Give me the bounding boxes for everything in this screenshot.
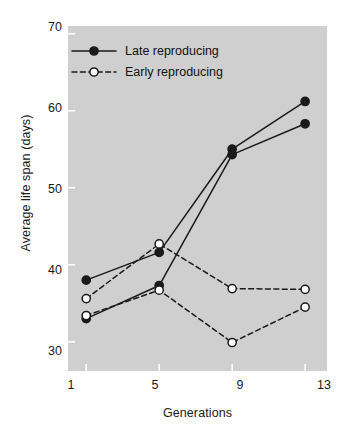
data-point-open [228, 285, 236, 293]
data-point-open [301, 285, 309, 293]
legend-label: Late reproducing [125, 44, 219, 58]
data-point-open [155, 286, 163, 294]
legend-marker-filled [90, 47, 98, 55]
data-point-filled [82, 276, 90, 284]
chart-figure: Average life span (days) 70 60 50 40 30 … [0, 0, 344, 433]
data-point-open [82, 295, 90, 303]
legend-label: Early reproducing [125, 65, 223, 79]
data-point-open [301, 303, 309, 311]
plot-canvas: Late reproducingEarly reproducing [0, 0, 344, 433]
data-point-filled [155, 248, 163, 256]
data-point-open [82, 311, 90, 319]
data-point-filled [301, 120, 309, 128]
legend-marker-open [90, 68, 98, 76]
data-point-open [228, 338, 236, 346]
data-point-open [155, 240, 163, 248]
data-point-filled [228, 151, 236, 159]
data-point-filled [301, 97, 309, 105]
